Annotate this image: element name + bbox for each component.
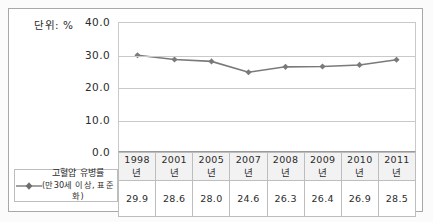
- y-tick-label: 10.0: [85, 114, 110, 126]
- plot-area: [118, 22, 416, 152]
- data-point-marker: [208, 58, 214, 64]
- chart-figure: 단위: % 40.030.020.010.00.0 1998년2001년2005…: [0, 0, 433, 222]
- table-column-header: 2009년: [304, 153, 341, 181]
- data-table: 1998년2001년2005년2007년2008년2009년2010년2011년…: [118, 152, 416, 217]
- table-column-header: 1998년: [119, 153, 156, 181]
- data-point-marker: [356, 62, 362, 68]
- y-tick-label: 40.0: [85, 16, 110, 28]
- y-tick-label: 30.0: [85, 49, 110, 61]
- table-cell-value: 26.3: [267, 181, 304, 217]
- table-cell-value: 28.6: [156, 181, 193, 217]
- table-header-row: 1998년2001년2005년2007년2008년2009년2010년2011년: [119, 153, 416, 181]
- table-column-header: 2008년: [267, 153, 304, 181]
- table-column-header: 2001년: [156, 153, 193, 181]
- table-column-header: 2011년: [378, 153, 415, 181]
- y-tick-label: 0.0: [92, 146, 110, 158]
- legend: 고혈압 유병률 (만30세 이상, 표준화): [14, 169, 118, 202]
- legend-label-line1: 고혈압 유병률: [42, 168, 114, 180]
- gridline: [119, 88, 415, 89]
- table-cell-value: 28.0: [193, 181, 230, 217]
- table-cell-value: 26.9: [341, 181, 378, 217]
- table-column-header: 2007년: [230, 153, 267, 181]
- data-point-marker: [393, 57, 399, 63]
- table-cell-value: 29.9: [119, 181, 156, 217]
- data-point-marker: [245, 69, 251, 75]
- y-tick-label: 20.0: [85, 81, 110, 93]
- table-row: 29.928.628.024.626.326.426.928.5: [119, 181, 416, 217]
- series-line-chart: [119, 23, 415, 151]
- series-marker-icon: [16, 180, 42, 192]
- table-cell-value: 26.4: [304, 181, 341, 217]
- table-column-header: 2010년: [341, 153, 378, 181]
- table-cell-value: 24.6: [230, 181, 267, 217]
- table-cell-value: 28.5: [378, 181, 415, 217]
- table-column-header: 2005년: [193, 153, 230, 181]
- gridline: [119, 56, 415, 57]
- legend-label-line2: (만30세 이상, 표준화): [42, 180, 114, 203]
- legend-label: 고혈압 유병률 (만30세 이상, 표준화): [42, 168, 117, 203]
- y-axis: 40.030.020.010.00.0: [60, 22, 114, 152]
- data-point-marker: [319, 63, 325, 69]
- data-point-marker: [282, 64, 288, 70]
- gridline: [119, 121, 415, 122]
- data-point-marker: [171, 56, 177, 62]
